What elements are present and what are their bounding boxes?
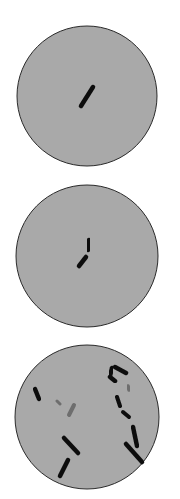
panel-3: [15, 345, 159, 489]
bacterium-cell: [57, 401, 60, 404]
petri-dish-figure: [0, 0, 180, 499]
panel-2: [16, 185, 158, 327]
petri-dish: [15, 345, 159, 489]
figure: [0, 0, 180, 499]
bacterium-cell: [110, 377, 115, 381]
bacterium-cell: [128, 386, 129, 390]
bacterium-cell: [88, 240, 89, 250]
bacterium-cell: [117, 397, 120, 406]
panel-1: [17, 26, 157, 166]
